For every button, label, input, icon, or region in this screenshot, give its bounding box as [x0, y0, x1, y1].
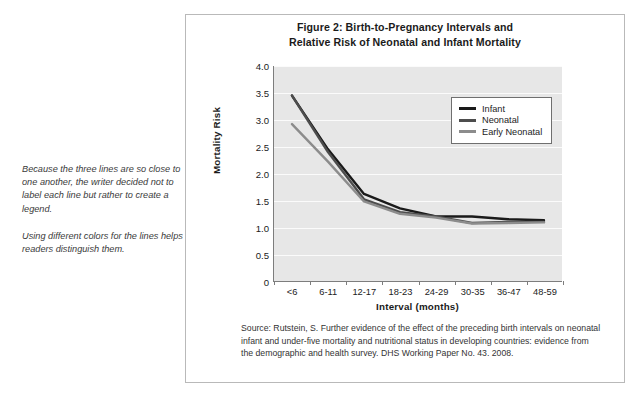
x-tick-mark [491, 281, 492, 285]
y-axis-label: Mortality Risk [211, 107, 222, 174]
y-tick-label: 1.5 [256, 196, 269, 207]
x-tick-label: 48-59 [533, 287, 557, 297]
legend-item-early-neonatal[interactable]: Early Neonatal [459, 126, 542, 138]
y-tick-label: 2.0 [256, 169, 269, 180]
x-tick-mark [455, 281, 456, 285]
x-tick-mark [310, 281, 311, 285]
x-tick-label: 24-29 [425, 287, 449, 297]
annotation-legend-note: Because the three lines are so close to … [22, 163, 184, 216]
y-tick-label: 3.0 [256, 115, 269, 126]
y-tick-label: 3.5 [256, 88, 269, 99]
x-tick-mark [382, 281, 383, 285]
x-tick-label: 30-35 [461, 287, 485, 297]
x-axis-label: Interval (months) [273, 301, 562, 312]
x-tick-label: 6-11 [319, 287, 337, 297]
x-tick-label: <6 [287, 287, 298, 297]
figure-page: Because the three lines are so close to … [0, 0, 644, 397]
x-tick-mark [274, 281, 275, 285]
x-tick-mark [563, 281, 564, 285]
y-tick-label: 4.0 [256, 61, 269, 72]
y-tick-label: 0.5 [256, 250, 269, 261]
x-tick-label: 36-47 [497, 287, 521, 297]
chart-legend[interactable]: InfantNeonatalEarly Neonatal [451, 97, 552, 144]
y-tick-label: 2.5 [256, 142, 269, 153]
y-tick-label: 1.0 [256, 223, 269, 234]
legend-swatch-icon [459, 130, 476, 133]
y-tick-label: 0 [264, 277, 269, 288]
x-tick-mark [527, 281, 528, 285]
legend-label: Neonatal [482, 115, 519, 125]
source-citation: Source: Rutstein, S. Further evidence of… [241, 322, 601, 360]
x-tick-mark [346, 281, 347, 285]
legend-item-neonatal[interactable]: Neonatal [459, 115, 542, 127]
x-tick-label: 18-23 [389, 287, 413, 297]
legend-item-infant[interactable]: Infant [459, 103, 542, 115]
legend-swatch-icon [459, 119, 476, 122]
x-tick-mark [419, 281, 420, 285]
legend-label: Early Neonatal [482, 127, 542, 137]
legend-label: Infant [482, 104, 505, 114]
legend-swatch-icon [459, 107, 476, 110]
annotation-colors-note: Using different colors for the lines hel… [22, 230, 184, 256]
x-tick-label: 12-17 [352, 287, 376, 297]
